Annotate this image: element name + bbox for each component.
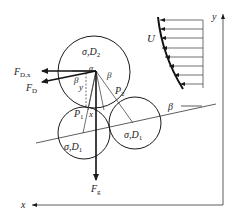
bottom-right-particle: [109, 97, 161, 149]
beta-right-label: β: [106, 70, 112, 80]
drag-force-label: FD: [25, 82, 37, 95]
top-particle-label: σ,D2: [82, 46, 101, 59]
slope-angle-label: β: [167, 101, 173, 112]
drag-x-force-label: FD,x: [13, 66, 31, 79]
x-axis-label: x: [20, 199, 26, 210]
particle-diagram: y x U β σ,D2 σ,D1 σ,D1: [0, 0, 235, 215]
velocity-label: U: [147, 32, 156, 44]
y-distance-label: y: [78, 82, 83, 92]
centre-line-a: [88, 71, 96, 110]
drag-force-arrow: [42, 71, 96, 82]
pivot2-label: P2: [114, 85, 125, 98]
pivot1-label: P1: [73, 108, 84, 121]
axes: y x: [20, 11, 223, 210]
gravity-force-label: Fg: [90, 183, 101, 196]
bottom-right-particle-label: σ,D1: [124, 129, 143, 142]
y-axis-label: y: [211, 11, 217, 22]
x-distance-label: x: [88, 109, 93, 119]
velocity-profile: U: [147, 17, 203, 89]
profile-curve: [158, 17, 183, 89]
